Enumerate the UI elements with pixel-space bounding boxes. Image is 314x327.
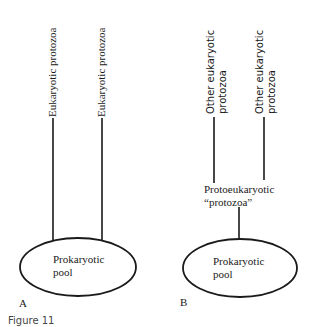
panel-b-intermediate-label-line2: “protozoa” [204,196,274,209]
panel-b-branch-label-2: Other eukaryotic protozoa [254,30,277,114]
panel-a-letter: A [19,297,27,310]
panel-b-pool-label-line1: Prokaryotic [213,255,264,268]
panel-a-pool-label-line2: pool [53,266,104,279]
panel-a-branch-label-2: Eukaryotic protozoa [95,28,108,118]
panel-b-branch-label-2-line1: Other eukaryotic [254,30,266,114]
panel-b-intermediate-label: Protoeukaryotic “protozoa” [204,183,274,208]
panel-b-letter: B [180,296,187,309]
panel-a-pool-label: Prokaryotic pool [53,253,104,278]
panel-b-pool-label: Prokaryotic pool [213,255,264,280]
panel-a-pool-label-line1: Prokaryotic [53,253,104,266]
panel-b-branch-label-1-line1: Other eukaryotic [205,30,217,114]
panel-b-branch-label-2-line2: protozoa [266,30,278,114]
panel-b-intermediate-label-line1: Protoeukaryotic [204,183,274,196]
figure-caption: Figure 11 [8,315,54,327]
panel-b-branch-label-1: Other eukaryotic protozoa [205,30,228,114]
panel-b-branch-label-1-line2: protozoa [217,30,229,114]
panel-a-branch-label-1: Eukaryotic protozoa [46,28,59,118]
panel-b-pool-label-line2: pool [213,268,264,281]
